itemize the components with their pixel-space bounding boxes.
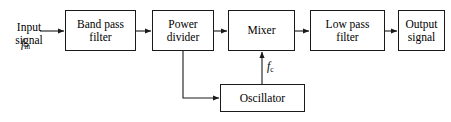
block-output-signal-label: Output signal [406,18,438,44]
block-low-pass-filter[interactable]: Low pass filter [310,10,385,51]
block-band-pass-filter-label: Band pass filter [77,18,124,44]
connector-divider-to-oscillator [183,51,219,98]
block-output-signal[interactable]: Output signal [398,10,445,51]
block-oscillator[interactable]: Oscillator [220,84,305,112]
block-power-divider-label: Power divider [167,18,200,44]
block-diagram: Input signal fin Band pass filter Power … [0,0,451,122]
block-oscillator-label: Oscillator [240,92,285,105]
block-band-pass-filter[interactable]: Band pass filter [65,10,136,51]
block-mixer-label: Mixer [247,24,275,37]
block-low-pass-filter-label: Low pass filter [326,18,370,44]
carrier-frequency-subscript: c [270,65,273,74]
input-frequency-subscript: in [24,42,30,51]
input-frequency-label: fin [21,37,30,49]
block-mixer[interactable]: Mixer [228,10,295,51]
block-power-divider[interactable]: Power divider [152,10,214,51]
carrier-frequency-label: fc [267,60,274,72]
